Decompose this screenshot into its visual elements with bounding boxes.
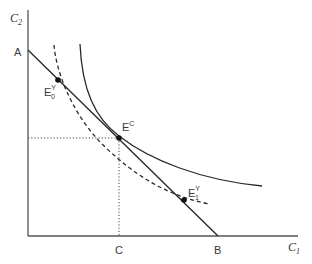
x-axis-label: C1 [288,240,300,256]
point-E1Y [181,197,187,203]
y-axis-label: C2 [10,11,22,27]
label-EC: EC [122,120,134,133]
point-EC [116,135,122,141]
intertemporal-consumption-diagram: C2 C1 A B C EY0 EC EY1 [0,0,312,264]
label-E0Y: EY0 [44,84,56,100]
label-B: B [214,244,221,256]
point-E0Y [55,77,61,83]
label-E1Y: EY1 [188,185,200,201]
indifference-curve-solid [80,44,262,186]
label-A: A [14,46,22,58]
label-C: C [115,244,123,256]
